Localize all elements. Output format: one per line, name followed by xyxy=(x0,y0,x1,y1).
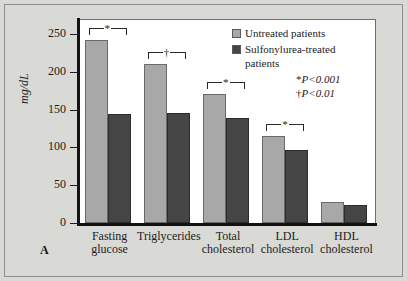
significance-symbol: * xyxy=(281,119,289,130)
significance-symbol: † xyxy=(163,47,171,58)
bar-untreated xyxy=(321,202,344,223)
bar-treated xyxy=(344,205,367,223)
category-label-line: HDL xyxy=(311,230,382,243)
y-axis-tick-label: 200 xyxy=(48,64,66,79)
y-axis-tick xyxy=(70,34,78,35)
panel-label: A xyxy=(40,243,49,258)
y-axis-tick xyxy=(70,185,78,186)
x-axis-line xyxy=(77,223,377,226)
legend-label-treated: Sulfonylurea-treated patients xyxy=(245,43,370,71)
bar-treated xyxy=(167,113,190,223)
bar-treated xyxy=(108,114,131,223)
legend-item: Untreated patients xyxy=(232,27,370,41)
p-value-note-primary: *P<0.001 xyxy=(296,73,340,87)
y-axis-tick xyxy=(70,147,78,148)
y-axis-tick xyxy=(70,223,78,224)
legend-label-untreated: Untreated patients xyxy=(245,27,370,41)
p-value-text-primary: P<0.001 xyxy=(302,73,341,85)
bar-treated xyxy=(226,118,249,223)
category-label-line: glucose xyxy=(74,243,145,256)
p-value-text-secondary: P<0.01 xyxy=(302,87,335,99)
legend-swatch-treated-icon xyxy=(232,45,241,54)
y-axis-tick-label: 250 xyxy=(48,26,66,41)
y-axis-tick xyxy=(70,72,78,73)
y-axis-tick-label: 50 xyxy=(54,177,66,192)
legend-item: Sulfonylurea-treated patients xyxy=(232,43,370,71)
p-value-note-secondary: †P<0.01 xyxy=(296,87,340,101)
bar-untreated xyxy=(144,64,167,223)
bar-treated xyxy=(285,150,308,223)
y-axis-tick-label: 0 xyxy=(60,215,66,230)
legend-swatch-untreated-icon xyxy=(232,29,241,38)
y-axis-tick-label: 150 xyxy=(48,102,66,117)
bar-untreated xyxy=(85,40,108,223)
y-axis-title: mg/dL xyxy=(17,73,32,104)
significance-symbol: * xyxy=(222,77,230,88)
category-label-line: cholesterol xyxy=(311,243,382,256)
p-value-notes: *P<0.001 †P<0.01 xyxy=(296,73,340,101)
significance-symbol: * xyxy=(104,23,112,34)
y-axis-line xyxy=(77,18,80,226)
y-axis-tick-label: 100 xyxy=(48,139,66,154)
bar-untreated xyxy=(262,136,285,223)
category-label: HDLcholesterol xyxy=(311,230,382,257)
figure-root: 050100150200250 mg/dL *†** Fastingglucos… xyxy=(0,0,407,281)
bar-untreated xyxy=(203,94,226,223)
legend: Untreated patients Sulfonylurea-treated … xyxy=(232,27,370,72)
y-axis-tick xyxy=(70,110,78,111)
